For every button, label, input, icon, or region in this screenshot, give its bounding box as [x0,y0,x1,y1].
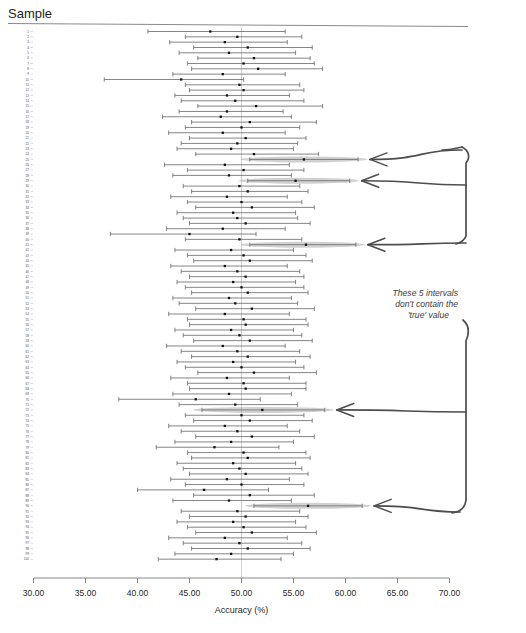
mean-point [305,244,307,246]
y-axis-tick-label: 41 [26,243,30,247]
interval-row [190,386,306,390]
interval-row [193,407,334,413]
interval-row [177,520,296,524]
mean-point [261,409,263,411]
y-axis-tick-label: 92 [26,515,30,519]
mean-point [247,457,249,459]
mean-point [228,499,230,501]
mean-point [251,308,253,310]
interval-row [181,99,304,103]
interval-row [158,557,281,561]
annotation-line-1: These 5 intervals [393,288,459,298]
mean-point [249,121,251,123]
mean-point [236,217,238,219]
interval-rows [104,29,371,561]
mean-point [224,425,226,427]
interval-row [183,466,302,470]
mean-point [226,196,228,198]
mean-point [228,52,230,54]
mean-point [228,393,230,395]
y-axis-tick-label: 80 [26,451,30,455]
mean-point [251,206,253,208]
interval-row [165,163,290,167]
y-axis-tick-label: 51 [26,296,30,300]
interval-row [175,93,289,97]
y-axis-tick-label: 97 [26,541,30,545]
mean-point [238,238,240,240]
mean-point [245,137,247,139]
interval-row [148,29,285,33]
y-axis-labels: 1234567891011121314151617181920212223242… [24,30,33,562]
mean-point [203,489,205,491]
x-axis-tick-label: 65.00 [387,588,409,598]
interval-row [187,200,301,204]
interval-row [175,440,294,444]
interval-row [194,493,315,497]
interval-row [185,413,304,417]
mean-point [236,430,238,432]
interval-row [162,115,291,119]
y-axis-tick-label: 58 [26,334,30,338]
y-axis-tick-label: 93 [26,520,30,524]
interval-row [198,370,317,374]
y-axis-tick-label: 45 [26,264,30,268]
y-axis-tick-label: 94 [26,525,30,529]
x-axis: 30.0035.0040.0045.0050.0055.0060.0065.00… [23,578,461,615]
y-axis-tick-label: 16 [26,110,30,114]
interval-row [181,429,300,433]
mean-point [224,41,226,43]
x-axis-tick-label: 35.00 [75,588,97,598]
y-axis-tick-label: 33 [26,200,30,204]
y-axis-tick-label: 32 [26,195,30,199]
interval-row [185,237,301,241]
mean-point [230,329,232,331]
interval-row [177,280,296,284]
interval-row [194,338,313,342]
mean-point [226,478,228,480]
interval-row [190,472,309,476]
interval-row [171,264,287,268]
mean-point [238,334,240,336]
mean-point [251,531,253,533]
mean-point [249,260,251,262]
x-axis-tick-label: 50.00 [231,588,253,598]
mean-point [245,324,247,326]
y-axis-tick-label: 72 [26,408,30,412]
y-axis-tick-label: 42 [26,248,30,252]
y-axis-tick-label: 65 [26,371,30,375]
arrow-shaft [368,243,466,245]
bracket-upper [456,147,469,244]
interval-row [169,424,288,428]
confidence-interval-chart: Sample 123456789101112131415161718192021… [0,0,526,633]
interval-row [183,333,302,337]
y-axis-tick-label: 74 [26,419,30,423]
y-axis-tick-label: 44 [26,259,30,263]
interval-row [187,450,306,454]
interval-row [185,285,304,289]
interval-row [169,312,290,316]
y-axis-tick-label: 27 [26,168,30,172]
mean-point [224,265,226,267]
mean-point [236,36,238,38]
interval-row [192,120,317,124]
y-axis-tick-label: 15 [26,104,30,108]
interval-row [169,536,288,540]
mean-point [247,190,249,192]
mean-point [232,521,234,523]
y-axis-tick-label: 100 [24,557,29,561]
y-axis-tick-label: 17 [26,115,30,119]
mean-point [226,94,228,96]
mean-point [230,553,232,555]
mean-point [240,201,242,203]
mean-point [247,355,249,357]
interval-row [170,40,288,44]
mean-point [238,185,240,187]
mean-point [249,494,251,496]
y-axis-tick-label: 82 [26,462,30,466]
mean-point [222,73,224,75]
y-axis-tick-label: 79 [26,446,30,450]
y-axis-tick-label: 3 [27,40,29,44]
y-axis-tick-label: 69 [26,392,30,396]
mean-point [234,100,236,102]
mean-point [232,361,234,363]
